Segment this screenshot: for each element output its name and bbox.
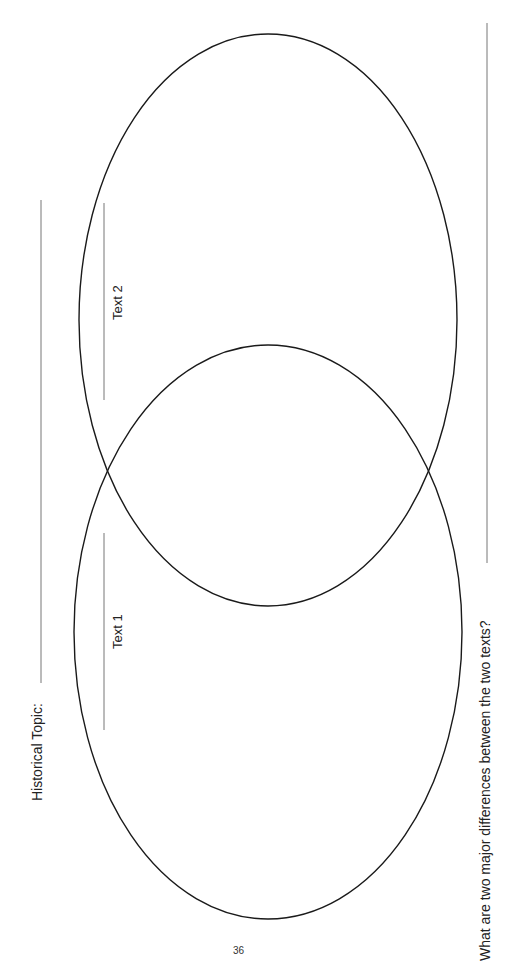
text-1-label: Text 1: [110, 614, 126, 649]
page-number: 36: [233, 945, 244, 956]
venn-diagram: [0, 0, 520, 976]
worksheet-page: Historical Topic: Text 2 Text 1 What are…: [0, 0, 520, 976]
text-1-ellipse: [74, 345, 462, 919]
text-2-label: Text 2: [110, 285, 126, 320]
historical-topic-label: Historical Topic:: [29, 703, 45, 801]
differences-question: What are two major differences between t…: [477, 620, 493, 961]
text-2-ellipse: [79, 34, 457, 606]
